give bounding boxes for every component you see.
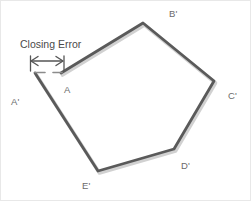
vertex-label-b-prime: B' <box>169 9 178 19</box>
vertex-label-a: A <box>64 85 71 95</box>
vertex-label-a-prime: A' <box>11 97 20 107</box>
closing-error-arrow <box>31 57 63 66</box>
vertex-label-e-prime: E' <box>82 181 91 191</box>
closing-error-label: Closing Error <box>20 39 81 50</box>
traverse-diagram-figure: Closing Error A A' B' C' D' E' <box>0 0 251 201</box>
vertex-label-c-prime: C' <box>228 91 237 101</box>
traverse-drawing <box>1 1 251 201</box>
vertex-label-d-prime: D' <box>181 161 190 171</box>
